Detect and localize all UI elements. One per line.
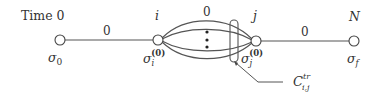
cut-label: Ctri,j <box>293 72 311 92</box>
node-label-sigma-f: σf <box>347 51 361 68</box>
node-sigma-i <box>153 35 163 45</box>
edge-label-0-i: 0 <box>103 24 111 38</box>
time-marker-j: j <box>250 8 257 23</box>
ellipsis-icon <box>205 30 208 48</box>
time-label: Time 0 <box>21 8 65 23</box>
transition-diagram: Time 0 i j N 0 0 0 σ0 σi(0) σj(0) <box>0 0 382 100</box>
node-sigma-f <box>349 36 359 46</box>
edge-label-bundle: 0 <box>203 5 211 19</box>
time-marker-i: i <box>155 8 159 23</box>
node-label-sigma-j: σj(0) <box>241 48 263 68</box>
node-label-sigma-0: σ0 <box>48 50 63 67</box>
node-label-sigma-i: σi(0) <box>143 48 165 68</box>
node-sigma-0 <box>55 35 65 45</box>
node-sigma-j <box>251 36 261 46</box>
time-marker-n: N <box>348 9 361 24</box>
edge-label-j-f: 0 <box>301 25 309 39</box>
